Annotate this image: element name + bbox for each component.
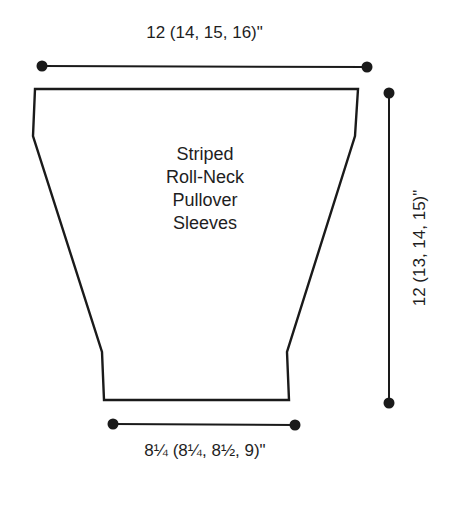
length-dimension: [384, 88, 395, 409]
piece-title-line: Striped: [130, 143, 280, 166]
length-label: 12 (13, 14, 15)": [410, 190, 430, 307]
cuff-width-label: 8¼ (8¼, 8½, 9)": [105, 441, 305, 461]
piece-title-line: Pullover: [130, 189, 280, 212]
piece-title-line: Roll-Neck: [130, 166, 280, 189]
piece-title-line: Sleeves: [130, 212, 280, 235]
top-width-dimension: [37, 61, 373, 73]
endpoint-dot: [290, 420, 301, 431]
piece-title: Striped Roll-Neck Pullover Sleeves: [130, 143, 280, 235]
endpoint-dot: [37, 61, 48, 72]
endpoint-dot: [384, 398, 395, 409]
endpoint-dot: [384, 88, 395, 99]
top-width-label: 12 (14, 15, 16)": [0, 23, 409, 43]
endpoint-dot: [108, 419, 119, 430]
sleeve-outline: [33, 89, 358, 400]
endpoint-dot: [362, 62, 373, 73]
cuff-width-dimension: [108, 419, 301, 431]
